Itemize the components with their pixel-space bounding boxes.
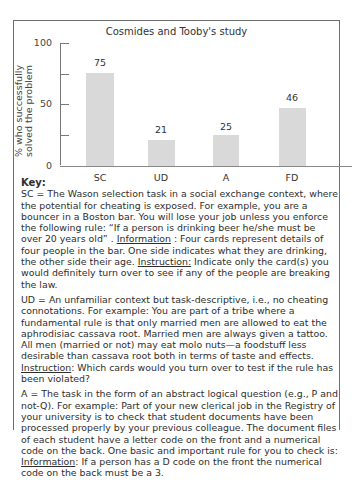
- bar-label-fd: 46: [272, 92, 312, 103]
- key-sc-paragraph: SC = The Wason selection task in a socia…: [21, 188, 339, 290]
- bar-label-a: 25: [206, 121, 246, 132]
- tick-75: [60, 74, 69, 75]
- instruction-label: Instruction: [21, 362, 71, 373]
- bar-a: [213, 135, 239, 166]
- key-section: Key: SC = The Wason selection task in a …: [21, 177, 339, 480]
- key-title: Key:: [21, 177, 339, 188]
- tick-label-100: 100: [24, 37, 52, 48]
- bar-label-ud: 21: [141, 124, 181, 135]
- bar-ud: [148, 140, 175, 166]
- y-axis-label: % who successfully solved the problem: [14, 61, 44, 161]
- tick-50: [60, 104, 69, 105]
- information-label: Information: [117, 233, 171, 244]
- y-axis-label-line2: solved the problem: [24, 61, 34, 161]
- key-ud-paragraph: UD = An unfamiliar context but task-desc…: [21, 294, 339, 384]
- x-axis: [60, 166, 352, 167]
- chart-title: Cosmides and Tooby's study: [14, 26, 339, 37]
- bar-label-sc: 75: [80, 57, 120, 68]
- instruction-label: Instruction:: [138, 256, 191, 267]
- figure-frame: Cosmides and Tooby's study % who success…: [13, 20, 340, 430]
- tick-label-50: 50: [24, 98, 52, 109]
- tick-100: [60, 43, 69, 44]
- key-a-paragraph: A = The task in the form of an abstract …: [21, 388, 339, 478]
- tick-25: [60, 135, 69, 136]
- information-label: Information: [21, 456, 75, 467]
- tick-label-0: 0: [24, 160, 52, 171]
- bar-sc: [86, 73, 114, 166]
- bar-fd: [279, 108, 306, 166]
